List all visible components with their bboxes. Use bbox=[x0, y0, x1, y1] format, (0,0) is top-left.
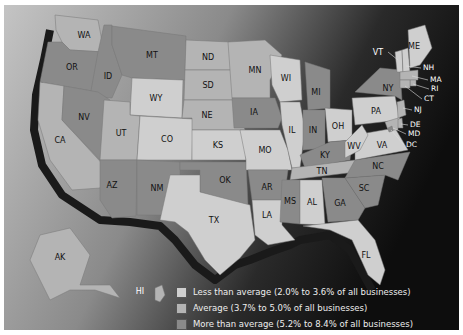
state-ma bbox=[400, 70, 418, 80]
state-label-ms: MS bbox=[284, 197, 296, 206]
state-label-ga: GA bbox=[334, 199, 346, 208]
state-label-md: MD bbox=[408, 129, 420, 138]
state-mi bbox=[305, 62, 330, 110]
state-label-wy: WY bbox=[150, 94, 163, 103]
legend-item-less: Less than average (2.0% to 3.6% of all b… bbox=[176, 284, 413, 300]
state-label-hi: HI bbox=[136, 287, 144, 296]
legend-item-average: Average (3.7% to 5.0% of all businesses) bbox=[176, 300, 413, 316]
state-label-az: AZ bbox=[107, 181, 118, 190]
state-label-pa: PA bbox=[371, 107, 381, 116]
legend-swatch-more bbox=[176, 319, 187, 330]
state-label-id: ID bbox=[104, 72, 113, 81]
legend-swatch-less bbox=[176, 287, 187, 298]
state-label-il: IL bbox=[289, 126, 296, 135]
state-label-mo: MO bbox=[258, 146, 271, 155]
state-label-vt: VT bbox=[373, 48, 383, 57]
state-label-nm: NM bbox=[151, 184, 164, 193]
legend-item-more: More than average (5.2% to 8.4% of all b… bbox=[176, 316, 413, 332]
state-label-tx: TX bbox=[208, 216, 220, 225]
state-label-mi: MI bbox=[311, 88, 320, 97]
state-label-va: VA bbox=[377, 141, 388, 150]
state-label-la: LA bbox=[262, 211, 273, 220]
state-label-ct: CT bbox=[424, 94, 434, 103]
state-label-nd: ND bbox=[202, 53, 214, 62]
state-label-fl: FL bbox=[361, 251, 371, 260]
legend: Less than average (2.0% to 3.6% of all b… bbox=[176, 284, 413, 332]
state-label-nh: NH bbox=[423, 63, 434, 72]
state-label-ma: MA bbox=[430, 75, 442, 84]
state-label-nj: NJ bbox=[414, 105, 422, 114]
state-label-ky: KY bbox=[320, 151, 330, 160]
state-ri bbox=[410, 80, 416, 86]
state-label-ar: AR bbox=[261, 183, 272, 192]
state-label-oh: OH bbox=[332, 122, 344, 131]
state-label-nv: NV bbox=[78, 113, 90, 122]
state-label-tn: TN bbox=[316, 167, 328, 176]
state-label-sd: SD bbox=[202, 81, 213, 90]
legend-label-less: Less than average (2.0% to 3.6% of all b… bbox=[193, 287, 411, 297]
state-label-ks: KS bbox=[213, 141, 223, 150]
legend-label-more: More than average (5.2% to 8.4% of all b… bbox=[193, 319, 413, 329]
state-label-or: OR bbox=[66, 63, 78, 72]
state-label-me: ME bbox=[408, 42, 420, 51]
state-label-de: DE bbox=[410, 120, 421, 129]
state-label-dc: DC bbox=[406, 140, 417, 149]
state-label-ok: OK bbox=[219, 176, 231, 185]
state-label-wv: WV bbox=[347, 142, 361, 151]
state-label-ia: IA bbox=[250, 108, 258, 117]
state-label-ri: RI bbox=[431, 84, 438, 93]
legend-swatch-average bbox=[176, 303, 187, 314]
state-label-in: IN bbox=[309, 126, 317, 135]
state-label-co: CO bbox=[161, 135, 173, 144]
state-label-ne: NE bbox=[201, 111, 212, 120]
state-label-ut: UT bbox=[116, 129, 127, 138]
state-label-wi: WI bbox=[281, 74, 291, 83]
state-label-al: AL bbox=[307, 198, 317, 207]
state-label-wa: WA bbox=[78, 31, 91, 40]
state-label-mn: MN bbox=[249, 66, 262, 75]
legend-label-average: Average (3.7% to 5.0% of all businesses) bbox=[193, 303, 367, 313]
state-label-ak: AK bbox=[55, 253, 66, 262]
map-frame: WAORCAIDNVMTWYUTCOAZNMNDSDNEKSOKTXMNIAMO… bbox=[0, 0, 463, 335]
state-ct bbox=[400, 80, 410, 88]
state-label-mt: MT bbox=[146, 51, 158, 60]
state-label-sc: SC bbox=[359, 184, 370, 193]
state-label-ny: NY bbox=[383, 84, 394, 93]
state-label-nc: NC bbox=[372, 162, 384, 171]
state-label-ca: CA bbox=[54, 136, 66, 145]
